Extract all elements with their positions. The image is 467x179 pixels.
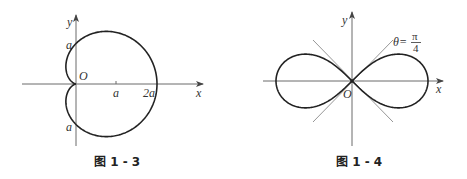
- theta-numerator: π: [412, 30, 418, 42]
- theta-label: θ= π 4: [393, 30, 421, 54]
- x-tick-a-label: a: [113, 86, 119, 100]
- y-axis-label: y: [66, 15, 73, 29]
- theta-denominator: 4: [413, 42, 419, 54]
- figure-1-3: y x O a a a 2a 图 1 - 3: [22, 15, 203, 169]
- origin-point: [350, 79, 354, 83]
- figure-caption: 图 1 - 3: [94, 155, 140, 169]
- x-tick-2a-label: 2a: [143, 86, 155, 100]
- figure-1-4: y x O θ= π 4 图 1 - 4: [263, 12, 443, 169]
- x-axis-label: x: [195, 86, 202, 100]
- x-axis-label: x: [435, 82, 442, 96]
- figure-caption: 图 1 - 4: [336, 155, 382, 169]
- origin-label: O: [79, 69, 88, 83]
- theta-prefix: θ=: [393, 35, 407, 49]
- y-axis-label: y: [341, 13, 348, 27]
- y-neg-a-label: a: [66, 120, 72, 134]
- origin-label: O: [343, 87, 352, 101]
- y-pos-a-label: a: [66, 38, 72, 52]
- figure-canvas: y x O a a a 2a 图 1 - 3 y x O θ= π 4 图 1 …: [0, 0, 467, 179]
